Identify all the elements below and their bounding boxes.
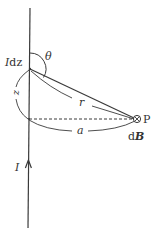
field-d: d [128, 130, 135, 143]
z-dimension-curve-bottom [16, 99, 28, 119]
r-dimension-curve-left [31, 71, 72, 98]
theta-angle-arc [30, 53, 46, 78]
theta-label: θ [45, 50, 52, 63]
current-element-point [29, 68, 31, 70]
a-dimension-curve-left [29, 120, 72, 131]
a-label: a [77, 124, 84, 137]
z-dimension-curve-top [16, 70, 29, 87]
z-label: z [12, 89, 23, 96]
field-B: B [134, 130, 144, 143]
foot-point [28, 118, 30, 120]
biot-savart-diagram: Idz θ r z a P dB I [0, 0, 160, 241]
r-line [30, 69, 134, 118]
current-element-dz: dz [9, 56, 22, 69]
point-p-label: P [143, 113, 151, 126]
field-db-label: dB [128, 130, 144, 143]
field-into-page-icon [133, 115, 140, 122]
current-element-label: Idz [4, 56, 22, 69]
r-label: r [79, 96, 85, 109]
current-label: I [14, 161, 20, 174]
